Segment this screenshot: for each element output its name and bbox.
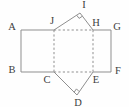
figure-canvas: ABCDEFGHIJ — [0, 0, 129, 107]
vertex-label-D: D — [74, 97, 82, 108]
vertex-label-B: B — [8, 64, 15, 75]
edge-I-H — [80, 13, 93, 30]
vertex-label-H: H — [92, 17, 100, 28]
vertex-label-A: A — [8, 21, 16, 32]
edge-C-D — [54, 72, 77, 95]
vertex-label-F: F — [115, 65, 121, 76]
geometry-figure: ABCDEFGHIJ — [0, 0, 129, 107]
vertex-label-J: J — [50, 15, 54, 26]
vertex-label-G: G — [113, 21, 121, 32]
edge-J-I — [54, 13, 80, 30]
right-angle-mark-D — [74, 89, 79, 92]
vertex-label-E: E — [93, 74, 99, 85]
vertex-label-I: I — [82, 0, 86, 10]
vertex-label-C: C — [43, 74, 50, 85]
